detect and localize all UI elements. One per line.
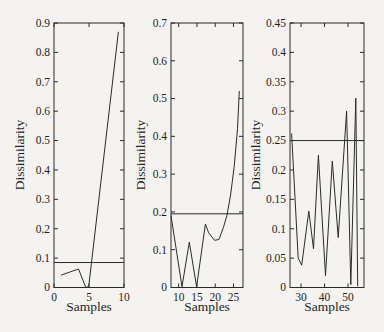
- y-tick-label: 0.5: [153, 92, 168, 104]
- y-tick-label: 0: [280, 281, 286, 293]
- x-axis-label-1: Samples: [49, 300, 129, 314]
- y-tick-label: 0.15: [266, 193, 286, 205]
- y-tick-label: 0.1: [153, 244, 168, 256]
- y-tick-label: 0.7: [153, 17, 168, 29]
- y-tick-label: 0.4: [36, 164, 51, 176]
- data-line: [292, 98, 358, 286]
- y-tick-label: 0.25: [266, 134, 286, 146]
- y-tick-label: 0.2: [153, 206, 168, 218]
- y-tick-label: 0.2: [36, 223, 51, 235]
- data-line: [171, 91, 239, 287]
- y-tick-label: 0: [44, 281, 50, 293]
- y-tick-label: 0.8: [36, 46, 51, 58]
- y-tick-label: 0.3: [272, 105, 287, 117]
- x-axis-label-3: Samples: [287, 300, 367, 314]
- y-tick-label: 0.6: [36, 105, 51, 117]
- axes-box: [54, 23, 124, 288]
- y-tick-label: 0.2: [272, 164, 287, 176]
- y-tick-label: 0.05: [266, 252, 286, 264]
- y-axis-label-3: Dissimilarity: [249, 105, 263, 205]
- figure-canvas: 051000.10.20.30.40.50.60.70.80.910152025…: [0, 0, 384, 332]
- y-tick-label: 0.45: [266, 17, 286, 29]
- x-axis-label-2: Samples: [167, 300, 247, 314]
- y-tick-label: 0.6: [153, 55, 168, 67]
- y-tick-label: 0.7: [36, 76, 51, 88]
- y-tick-label: 0.1: [272, 223, 287, 235]
- y-axis-label-1: Dissimilarity: [13, 105, 27, 205]
- y-tick-label: 0.9: [36, 17, 51, 29]
- y-tick-label: 0.5: [36, 134, 51, 146]
- y-tick-label: 0.4: [272, 46, 287, 58]
- y-tick-label: 0.3: [36, 193, 51, 205]
- axes-box: [171, 23, 243, 288]
- y-tick-label: 0.35: [266, 76, 286, 88]
- y-axis-label-2: Dissimilarity: [134, 105, 148, 205]
- data-line: [61, 32, 118, 288]
- y-tick-label: 0: [161, 281, 167, 293]
- y-tick-label: 0.4: [153, 130, 168, 142]
- dissimilarity-figure: 051000.10.20.30.40.50.60.70.80.910152025…: [0, 0, 384, 332]
- y-tick-label: 0.1: [36, 252, 51, 264]
- y-tick-label: 0.3: [153, 168, 168, 180]
